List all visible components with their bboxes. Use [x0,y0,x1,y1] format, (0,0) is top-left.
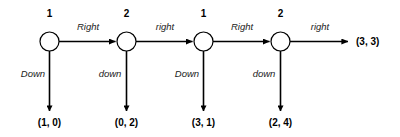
action-label-down-node-4: down [253,68,276,79]
payoff-label-down-node-1: (1, 0) [38,117,61,128]
action-label-right-node-1: Right [77,21,100,32]
decision-node-4[interactable] [271,32,290,51]
player-label-node-1: 1 [47,8,53,19]
action-label-down-node-3: Down [175,68,199,79]
action-label-down-node-1: Down [21,68,45,79]
payoff-label-down-node-3: (3, 1) [192,117,215,128]
decision-node-1[interactable] [40,32,59,51]
player-label-node-3: 1 [201,8,207,19]
player-label-node-4: 2 [278,8,284,19]
action-label-right-node-4: right [311,21,330,32]
payoff-label-terminal-right: (3, 3) [356,36,379,47]
decision-node-3[interactable] [194,32,213,51]
action-label-right-node-3: Right [231,21,254,32]
decision-node-2[interactable] [117,32,136,51]
payoff-label-down-node-4: (2, 4) [269,117,292,128]
action-label-right-node-2: right [156,21,175,32]
payoff-label-down-node-2: (0, 2) [115,117,138,128]
game-tree-svg: 1 2 1 2 Right right Right right Down dow… [0,0,400,137]
action-label-down-node-2: down [99,68,122,79]
game-tree-figure: 1 2 1 2 Right right Right right Down dow… [0,0,400,137]
player-label-node-2: 2 [124,8,130,19]
